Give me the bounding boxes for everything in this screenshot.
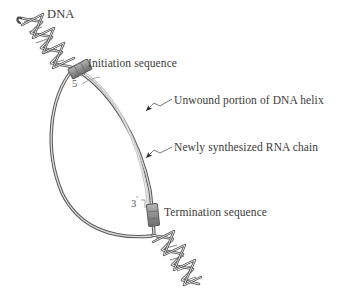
label-three-prime: 3′ [131, 196, 138, 209]
transcription-diagram-figure: DNA Initiation sequence Unwound portion … [0, 0, 339, 300]
label-initiation-sequence: Initiation sequence [88, 58, 177, 70]
downstream-dna-helix [152, 231, 201, 285]
label-rna-chain: Newly synthesized RNA chain [174, 142, 318, 154]
upstream-dna-helix [17, 14, 74, 68]
label-unwound-portion: Unwound portion of DNA helix [174, 95, 324, 107]
three-prime-mark: ′ [136, 195, 138, 204]
three-prime-tick [141, 200, 145, 208]
five-prime-mark: ′ [77, 75, 79, 84]
label-five-prime: 5′ [72, 76, 79, 89]
rna-chain [86, 74, 148, 210]
label-dna: DNA [47, 8, 74, 21]
leader-line-rna [146, 147, 172, 158]
termination-sequence-box [146, 203, 159, 226]
leader-line-unwound [146, 99, 172, 111]
label-termination-sequence: Termination sequence [164, 207, 267, 219]
